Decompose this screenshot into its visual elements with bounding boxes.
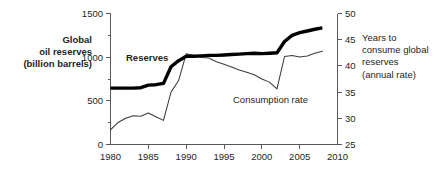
consumption-rate-series-label: Consumption rate (233, 94, 308, 105)
right-axis-ticks (338, 14, 343, 145)
reserves-series-label: Reserves (126, 52, 168, 63)
right-tick-label: 35 (345, 87, 356, 98)
x-tick-label: 1995 (213, 151, 234, 162)
left-tick-label: 500 (87, 95, 103, 106)
left-axis-title: Global oil reserves (billion barrels) (4, 34, 92, 71)
x-tick-label: 2010 (327, 151, 348, 162)
left-axis-title-line-2: oil reserves (4, 46, 92, 58)
consumption-rate-line (111, 51, 323, 130)
left-axis-tick-labels: 050010001500 (82, 8, 103, 150)
x-axis-ticks (148, 145, 299, 149)
left-tick-label: 0 (98, 139, 103, 150)
right-tick-label: 40 (345, 60, 356, 71)
left-tick-label: 1500 (82, 8, 103, 19)
x-tick-label: 2005 (289, 151, 310, 162)
right-axis-tick-labels: 253035404550 (345, 8, 356, 150)
left-axis-title-line-3: (billion barrels) (4, 58, 92, 70)
left-axis-title-line-1: Global (4, 34, 92, 46)
right-axis-title-line-1: Years to (362, 32, 436, 44)
right-axis-title: Years to consume global reserves (annual… (362, 32, 436, 81)
x-tick-label: 1990 (176, 151, 197, 162)
left-axis-ticks (106, 14, 111, 145)
right-tick-label: 45 (345, 34, 356, 45)
x-tick-label: 1980 (100, 151, 121, 162)
x-axis-tick-labels: 1980198519901995200020052010 (100, 151, 348, 162)
x-tick-label: 2000 (251, 151, 272, 162)
right-axis-title-line-4: (annual rate) (362, 69, 436, 81)
chart-canvas: 050010001500 253035404550 19801985199019… (0, 0, 437, 173)
right-tick-label: 50 (345, 8, 356, 19)
chart-figure: 050010001500 253035404550 19801985199019… (0, 0, 437, 173)
x-tick-label: 1985 (138, 151, 159, 162)
right-tick-label: 30 (345, 113, 356, 124)
right-tick-label: 25 (345, 139, 356, 150)
right-axis-title-line-2: consume global (362, 44, 436, 56)
right-axis-title-line-3: reserves (362, 56, 436, 68)
